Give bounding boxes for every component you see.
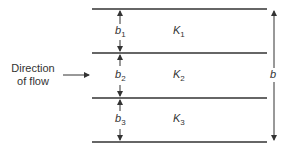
k3-label: K3 xyxy=(173,112,185,127)
flow-label-line2: of flow xyxy=(4,75,62,88)
k2-label: K2 xyxy=(173,68,185,83)
total-b-label: b xyxy=(270,68,276,80)
k1-label: K1 xyxy=(173,24,185,39)
b1-label: b1 xyxy=(115,24,126,39)
b2-label: b2 xyxy=(115,68,126,83)
flow-direction-label: Direction of flow xyxy=(4,62,62,88)
b3-label: b3 xyxy=(115,112,126,127)
flow-label-line1: Direction xyxy=(4,62,62,75)
